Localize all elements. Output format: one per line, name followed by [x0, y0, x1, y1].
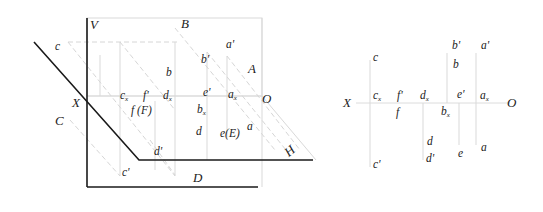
- label-d-prime: d': [426, 152, 435, 164]
- label-bx: bx: [197, 103, 207, 117]
- label-B: B: [181, 16, 189, 31]
- projection-diagram-canvas: V c B a' b' A b cx f' dx e' ax O X C f (…: [0, 0, 543, 212]
- label-c: c: [373, 51, 378, 63]
- diag-C: [70, 120, 120, 176]
- label-d: d: [427, 135, 433, 147]
- label-cx: cx: [373, 89, 382, 103]
- label-H: H: [280, 142, 298, 161]
- label-d: d: [196, 125, 202, 137]
- label-a: a: [481, 141, 487, 153]
- label-e-prime: e': [457, 88, 465, 100]
- label-a: a: [247, 120, 253, 132]
- label-c-prime: c': [373, 158, 381, 170]
- label-c: c: [55, 40, 60, 52]
- label-O: O: [262, 91, 272, 106]
- label-e-prime: e': [203, 86, 211, 98]
- label-b-prime: b': [201, 53, 210, 65]
- label-bx: bx: [441, 105, 451, 119]
- label-e: e: [458, 147, 463, 159]
- label-f-prime: f': [397, 89, 403, 102]
- label-X: X: [342, 95, 352, 110]
- right-diagram: b' a' c b cx f' dx e' ax X O f bx d a e …: [342, 39, 517, 170]
- label-V: V: [90, 17, 100, 32]
- label-f-F: f (F): [131, 104, 152, 117]
- label-f: f: [396, 106, 401, 119]
- label-d-prime: d': [154, 145, 163, 157]
- label-D: D: [192, 170, 203, 185]
- label-a-prime: a': [226, 38, 235, 50]
- label-b: b: [453, 58, 459, 70]
- label-O: O: [507, 95, 517, 110]
- label-b: b: [166, 66, 172, 78]
- label-ax: ax: [480, 89, 490, 103]
- label-b-prime: b': [452, 39, 461, 51]
- label-dx: dx: [420, 89, 430, 103]
- label-A: A: [247, 61, 256, 76]
- label-C: C: [55, 113, 64, 128]
- left-diagram: V c B a' b' A b cx f' dx e' ax O X C f (…: [34, 16, 316, 187]
- label-f-prime: f': [143, 89, 149, 102]
- label-cx: cx: [120, 89, 129, 103]
- label-a-prime: a': [481, 39, 490, 51]
- label-ax: ax: [228, 88, 238, 102]
- label-dx: dx: [163, 89, 173, 103]
- label-X: X: [71, 95, 81, 110]
- label-c-prime: c': [122, 166, 130, 178]
- label-e-E: e(E): [220, 127, 240, 140]
